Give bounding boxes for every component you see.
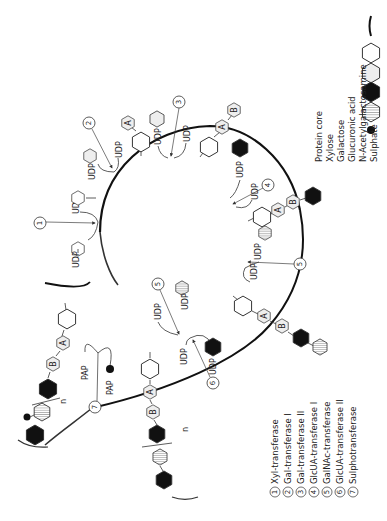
enzyme-item-7: 7 Sulphotransferase xyxy=(348,406,358,497)
svg-text:B: B xyxy=(230,107,239,113)
chain-upper-left: A B n xyxy=(24,303,76,445)
enzyme-item-3: 3 Gal-transferase II xyxy=(296,411,306,497)
svg-text:2: 2 xyxy=(284,490,292,494)
svg-text:5: 5 xyxy=(296,262,304,266)
svg-text:UDP: UDP xyxy=(183,125,192,142)
svg-text:A: A xyxy=(218,124,227,130)
enzyme-item-1: 1 Xyl-transferase xyxy=(270,419,280,497)
svg-text:UDP: UDP xyxy=(250,263,259,280)
sulfate-dot xyxy=(106,365,114,373)
svg-text:GlcUA-transferase I: GlcUA-transferase I xyxy=(309,402,319,484)
legend-galnac-symbol xyxy=(362,102,379,122)
svg-text:6: 6 xyxy=(336,489,344,494)
xylose-hexagon xyxy=(72,191,84,205)
legend-xylose-symbol xyxy=(362,43,379,63)
svg-text:GalNAc-transferase: GalNAc-transferase xyxy=(322,402,332,484)
enzyme-item-6: 6 GlcUA-transferase II xyxy=(335,399,345,497)
svg-text:UDP: UDP xyxy=(251,183,260,200)
svg-text:PAP: PAP xyxy=(81,365,90,380)
galactose-hexagon xyxy=(150,111,164,127)
chain-xyl-gal: A xyxy=(122,116,150,156)
svg-text:B: B xyxy=(278,323,287,329)
galnac-hexagon xyxy=(176,281,188,295)
svg-text:UDP: UDP xyxy=(72,251,81,268)
chain-lower-middle: A B n xyxy=(141,352,190,489)
galnac-hexagon xyxy=(259,226,271,240)
svg-text:UDP: UDP xyxy=(254,243,263,260)
svg-text:n: n xyxy=(181,427,190,432)
svg-text:1: 1 xyxy=(271,490,279,494)
enzyme-item-4: 4 GlcUA-transferase I xyxy=(309,402,319,497)
chondroitin-sulfate-biosynthesis-diagram: 1 UDP UDP 2 UDP UDP A 3 UDP UDP xyxy=(0,0,387,521)
svg-text:B: B xyxy=(49,361,58,367)
svg-text:4: 4 xyxy=(310,489,318,494)
sulfate-dot xyxy=(24,414,31,421)
legend-galactose-symbol xyxy=(362,63,379,83)
step-2-group: 2 UDP UDP xyxy=(83,117,124,180)
svg-text:A: A xyxy=(146,389,155,395)
svg-text:Gal-transferase II: Gal-transferase II xyxy=(296,411,306,484)
galactose-hexagon xyxy=(84,149,96,163)
svg-text:UDP: UDP xyxy=(180,348,189,365)
svg-text:B: B xyxy=(289,199,298,205)
svg-text:4: 4 xyxy=(264,182,272,187)
svg-text:UDP: UDP xyxy=(236,161,245,178)
step-3-group: 3 UDP UDP xyxy=(150,96,192,158)
svg-text:UDP: UDP xyxy=(209,358,218,375)
svg-text:GlcUA-transferase II: GlcUA-transferase II xyxy=(335,399,345,484)
enzyme-item-5: 5 GalNAc-transferase xyxy=(322,402,332,497)
legend: Protein core Xylose Galactose Glucuronic… xyxy=(362,16,379,134)
svg-text:3: 3 xyxy=(175,100,183,104)
svg-text:Xyl-transferase: Xyl-transferase xyxy=(270,419,280,484)
svg-text:PAP: PAP xyxy=(106,380,115,395)
glucuronic-acid-hexagon xyxy=(232,139,248,157)
svg-text:UDP: UDP xyxy=(154,128,163,145)
svg-text:A: A xyxy=(260,313,269,319)
svg-text:7: 7 xyxy=(91,405,99,409)
svg-text:Gal-transferase I: Gal-transferase I xyxy=(283,413,293,484)
svg-text:1: 1 xyxy=(36,221,44,225)
svg-text:3: 3 xyxy=(297,490,305,494)
svg-text:5: 5 xyxy=(323,490,331,494)
svg-text:B: B xyxy=(149,409,158,415)
step-1-group: 1 UDP UDP xyxy=(34,191,98,268)
svg-text:UDP: UDP xyxy=(181,293,190,310)
svg-text:n: n xyxy=(59,399,68,404)
svg-text:5: 5 xyxy=(154,282,162,286)
svg-text:UDP: UDP xyxy=(115,141,124,158)
legend-protein-core-symbol xyxy=(370,16,372,36)
svg-text:2: 2 xyxy=(85,121,93,125)
step-5-group-left: 5 UDP UDP xyxy=(152,278,190,335)
enzyme-item-2: 2 Gal-transferase I xyxy=(283,413,293,497)
enzyme-list: 1 Xyl-transferase 2 Gal-transferase I 3 … xyxy=(270,399,358,497)
svg-text:A: A xyxy=(59,340,68,346)
svg-text:UDP: UDP xyxy=(88,163,97,180)
step-6-group: 6 UDP UDP xyxy=(180,335,221,389)
legend-glucuronic-acid-symbol xyxy=(362,82,379,102)
svg-text:7: 7 xyxy=(349,490,357,494)
svg-text:A: A xyxy=(274,207,283,213)
svg-text:6: 6 xyxy=(209,380,217,385)
glucuronic-acid-hexagon xyxy=(205,338,221,356)
legend-sulphate-symbol xyxy=(367,126,375,134)
svg-text:UDP: UDP xyxy=(154,303,163,320)
svg-text:Sulphotransferase: Sulphotransferase xyxy=(348,406,358,484)
svg-text:A: A xyxy=(124,120,133,126)
